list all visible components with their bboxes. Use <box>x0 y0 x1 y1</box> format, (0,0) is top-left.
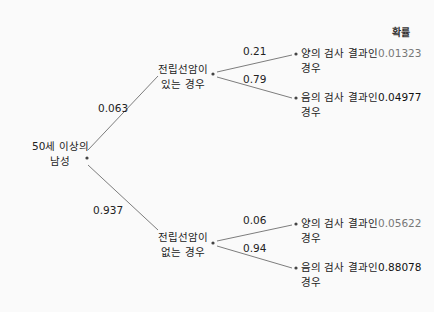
edge-nocancer-to-positive <box>217 225 292 241</box>
leaf-2-line1: 음의 검사 결과인 <box>301 90 378 105</box>
edge-prob-nocancer-negative: 0.94 <box>243 242 266 255</box>
leaf-2-line2: 경우 <box>301 105 378 120</box>
node-no-cancer-label: 전립선암이 없는 경우 <box>156 230 210 260</box>
nocancer-node-dot <box>211 241 214 244</box>
joint-prob-2: 0.04977 <box>378 90 421 105</box>
leaf-1-line1: 양의 검사 결과인 <box>301 46 378 61</box>
leaf-4-line2: 경우 <box>301 275 378 290</box>
probability-header: 확률 <box>392 24 410 39</box>
edge-root-to-no-cancer <box>88 165 158 230</box>
leaf-dot-3 <box>294 222 297 225</box>
edge-prob-no-cancer: 0.937 <box>93 204 123 217</box>
joint-prob-3: 0.05622 <box>378 216 421 231</box>
node-no-cancer-line2: 없는 경우 <box>156 245 210 260</box>
leaf-label-3: 양의 검사 결과인 경우 <box>301 216 378 246</box>
root-label-line2: 남성 <box>32 154 88 169</box>
node-cancer-line2: 있는 경우 <box>156 77 210 92</box>
edge-prob-cancer-negative: 0.79 <box>243 73 266 86</box>
edge-prob-nocancer-positive: 0.06 <box>243 214 266 227</box>
node-no-cancer-line1: 전립선암이 <box>156 230 210 245</box>
leaf-dot-4 <box>294 266 297 269</box>
edge-prob-cancer-positive: 0.21 <box>243 45 266 58</box>
edge-prob-cancer: 0.063 <box>98 102 128 115</box>
leaf-4-line1: 음의 검사 결과인 <box>301 260 378 275</box>
leaf-label-4: 음의 검사 결과인 경우 <box>301 260 378 290</box>
leaf-label-1: 양의 검사 결과인 경우 <box>301 46 378 76</box>
node-cancer-line1: 전립선암이 <box>156 62 210 77</box>
root-label-line1: 50세 이상의 <box>32 139 88 154</box>
root-label: 50세 이상의 남성 <box>32 139 88 169</box>
leaf-label-2: 음의 검사 결과인 경우 <box>301 90 378 120</box>
leaf-dot-2 <box>294 96 297 99</box>
leaf-3-line1: 양의 검사 결과인 <box>301 216 378 231</box>
cancer-node-dot <box>211 72 214 75</box>
node-cancer-label: 전립선암이 있는 경우 <box>156 62 210 92</box>
leaf-1-line2: 경우 <box>301 61 378 76</box>
leaf-dot-1 <box>294 52 297 55</box>
joint-prob-4: 0.88078 <box>378 260 421 275</box>
joint-prob-1: 0.01323 <box>378 46 421 61</box>
leaf-3-line2: 경우 <box>301 231 378 246</box>
